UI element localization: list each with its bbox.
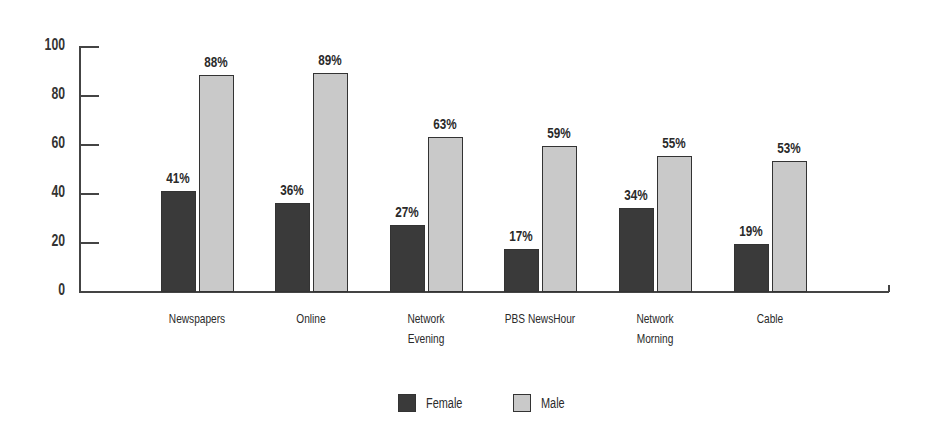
bar-value-label: 17% [498, 227, 545, 244]
bar-value-label: 19% [728, 222, 775, 239]
bar-female [619, 208, 654, 292]
legend-label-male: Male [541, 395, 565, 411]
bar-value-label: 41% [155, 169, 202, 186]
legend-label-female: Female [426, 395, 462, 411]
bar-male [428, 137, 463, 292]
bar-male [657, 156, 692, 292]
category-label: PBS NewsHour [493, 309, 587, 329]
y-axis [79, 46, 81, 292]
bar-value-label: 63% [422, 115, 469, 132]
y-tick-label: 80 [36, 84, 65, 104]
bar-female [275, 203, 310, 292]
bar-value-label: 88% [193, 53, 240, 70]
bar-value-label: 27% [384, 203, 431, 220]
y-tick-label: 100 [36, 35, 65, 55]
y-tick-label: 20 [36, 231, 65, 251]
y-tick-mark [79, 144, 99, 146]
bar-value-label: 34% [613, 186, 660, 203]
bar-female [504, 249, 539, 292]
bar-value-label: 55% [651, 134, 698, 151]
bar-value-label: 36% [269, 181, 316, 198]
legend-item-female: Female [398, 394, 473, 412]
legend-swatch-female [398, 394, 416, 412]
bar-female [161, 191, 196, 292]
y-tick-label: 60 [36, 133, 65, 153]
category-label: Network Morning [608, 309, 702, 349]
category-label: Network Evening [379, 309, 473, 349]
legend-item-male: Male [513, 394, 571, 412]
legend: Female Male [398, 394, 611, 412]
y-tick-mark [79, 193, 99, 195]
bar-female [390, 225, 425, 292]
bar-female [734, 244, 769, 292]
category-label: Online [264, 309, 358, 329]
bar-male [542, 146, 577, 292]
bar-male [772, 161, 807, 292]
y-tick-label: 40 [36, 182, 65, 202]
bar-male [313, 73, 348, 292]
legend-swatch-male [513, 394, 531, 412]
bar-chart: 020406080100 41%88%36%89%27%63%17%59%34%… [0, 0, 937, 447]
y-tick-mark [79, 242, 99, 244]
y-tick-mark [79, 95, 99, 97]
category-label: Newspapers [150, 309, 244, 329]
bar-value-label: 53% [766, 139, 813, 156]
bar-value-label: 89% [307, 51, 354, 68]
bar-male [199, 75, 234, 292]
bar-value-label: 59% [536, 124, 583, 141]
x-axis-end-tick [888, 285, 890, 292]
category-label: Cable [723, 309, 817, 329]
y-tick-label: 0 [36, 280, 65, 300]
y-tick-mark [79, 46, 99, 48]
